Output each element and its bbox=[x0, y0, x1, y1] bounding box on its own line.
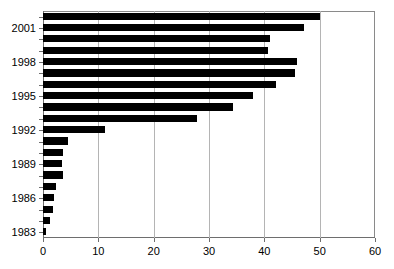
bars-series bbox=[43, 11, 375, 238]
y-tick-2001 bbox=[39, 28, 43, 29]
x-axis-label-10: 10 bbox=[92, 246, 104, 257]
bar-1997 bbox=[43, 69, 295, 76]
bar-row bbox=[43, 193, 375, 204]
y-tick-1997 bbox=[39, 73, 43, 74]
y-tick-1992 bbox=[39, 130, 43, 131]
bar-1994 bbox=[43, 103, 233, 110]
bar-row bbox=[43, 147, 375, 158]
x-axis-label-0: 0 bbox=[40, 246, 46, 257]
x-axis-label-50: 50 bbox=[314, 246, 326, 257]
bar-2002 bbox=[43, 13, 320, 20]
bar-row bbox=[43, 170, 375, 181]
y-axis-label-1995: 1995 bbox=[12, 91, 36, 102]
x-tick-30 bbox=[209, 238, 210, 242]
bar-row bbox=[43, 68, 375, 79]
x-axis-label-40: 40 bbox=[258, 246, 270, 257]
y-tick-1999 bbox=[39, 51, 43, 52]
bar-1995 bbox=[43, 92, 253, 99]
bar-1986 bbox=[43, 194, 54, 201]
x-tick-10 bbox=[98, 238, 99, 242]
y-axis-label-1998: 1998 bbox=[12, 57, 36, 68]
bar-2001 bbox=[43, 24, 304, 31]
y-axis-label-2001: 2001 bbox=[12, 23, 36, 34]
bar-1988 bbox=[43, 171, 63, 178]
x-axis-label-30: 30 bbox=[203, 246, 215, 257]
bar-1992 bbox=[43, 126, 105, 133]
bar-row bbox=[43, 204, 375, 215]
y-tick-1989 bbox=[39, 164, 43, 165]
y-tick-2002 bbox=[39, 17, 43, 18]
bar-1983 bbox=[43, 228, 46, 235]
y-tick-1998 bbox=[39, 62, 43, 63]
bar-row bbox=[43, 11, 375, 22]
y-tick-1994 bbox=[39, 107, 43, 108]
x-tick-20 bbox=[154, 238, 155, 242]
x-tick-0 bbox=[43, 238, 44, 242]
bar-1987 bbox=[43, 183, 56, 190]
y-tick-1986 bbox=[39, 198, 43, 199]
bar-row bbox=[43, 90, 375, 101]
bar-row bbox=[43, 102, 375, 113]
y-axis-label-1992: 1992 bbox=[12, 125, 36, 136]
bar-row bbox=[43, 113, 375, 124]
bar-row bbox=[43, 215, 375, 226]
bar-row bbox=[43, 56, 375, 67]
bar-row bbox=[43, 22, 375, 33]
bar-1993 bbox=[43, 115, 197, 122]
y-tick-1995 bbox=[39, 96, 43, 97]
y-axis-label-1983: 1983 bbox=[12, 227, 36, 238]
y-axis-label-1989: 1989 bbox=[12, 159, 36, 170]
x-axis-label-20: 20 bbox=[148, 246, 160, 257]
bar-row bbox=[43, 227, 375, 238]
bar-1984 bbox=[43, 217, 50, 224]
bar-chart: 2001199819951992198919861983 01020304050… bbox=[0, 0, 394, 269]
bar-row bbox=[43, 125, 375, 136]
x-tick-50 bbox=[320, 238, 321, 242]
plot-area: 2001199819951992198919861983 01020304050… bbox=[43, 11, 375, 238]
bar-1990 bbox=[43, 149, 63, 156]
bar-1991 bbox=[43, 137, 68, 144]
bar-row bbox=[43, 159, 375, 170]
bar-1985 bbox=[43, 206, 53, 213]
bar-1996 bbox=[43, 81, 276, 88]
bar-row bbox=[43, 181, 375, 192]
bar-row bbox=[43, 136, 375, 147]
bar-2000 bbox=[43, 35, 270, 42]
bar-row bbox=[43, 45, 375, 56]
bar-1999 bbox=[43, 47, 268, 54]
y-tick-2000 bbox=[39, 39, 43, 40]
bar-row bbox=[43, 34, 375, 45]
y-tick-1987 bbox=[39, 187, 43, 188]
y-tick-1985 bbox=[39, 210, 43, 211]
y-tick-1996 bbox=[39, 85, 43, 86]
bar-1998 bbox=[43, 58, 297, 65]
x-tick-40 bbox=[264, 238, 265, 242]
x-tick-60 bbox=[375, 238, 376, 242]
y-tick-1993 bbox=[39, 119, 43, 120]
y-tick-1991 bbox=[39, 142, 43, 143]
x-axis-label-60: 60 bbox=[369, 246, 381, 257]
y-tick-1984 bbox=[39, 221, 43, 222]
bar-row bbox=[43, 79, 375, 90]
y-tick-1988 bbox=[39, 176, 43, 177]
y-tick-1983 bbox=[39, 232, 43, 233]
bar-1989 bbox=[43, 160, 62, 167]
y-tick-1990 bbox=[39, 153, 43, 154]
y-axis-label-1986: 1986 bbox=[12, 193, 36, 204]
